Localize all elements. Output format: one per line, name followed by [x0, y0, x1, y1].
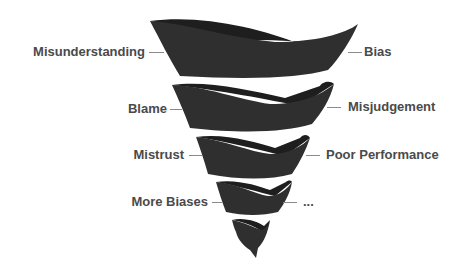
label-misjudgement: Misjudgement [348, 99, 435, 115]
connector-more-biases [212, 202, 222, 203]
connector-bias [348, 52, 362, 53]
label-more-biases: More Biases [131, 194, 208, 210]
label-bias: Bias [364, 44, 391, 60]
funnel-graphic [0, 0, 465, 263]
connector-blame [170, 109, 182, 110]
connector-mistrust [189, 155, 202, 156]
funnel-band-4 [216, 181, 292, 216]
funnel-band-5 [232, 219, 270, 258]
label-ellipsis: ... [303, 194, 314, 210]
connector-misunderstanding [149, 52, 164, 53]
label-poor-performance: Poor Performance [326, 147, 439, 163]
label-blame: Blame [128, 101, 167, 117]
label-mistrust: Mistrust [133, 147, 184, 163]
funnel-band-5-face [232, 220, 270, 258]
connector-misjudgement [327, 107, 341, 108]
funnel-band-3 [196, 135, 310, 179]
connector-ellipsis [283, 202, 297, 203]
funnel-band-1 [150, 19, 358, 78]
spiral-funnel-diagram: Misunderstanding Blame Mistrust More Bia… [0, 0, 465, 263]
funnel-band-2 [172, 82, 334, 132]
connector-poor-performance [306, 155, 320, 156]
label-misunderstanding: Misunderstanding [33, 44, 145, 60]
